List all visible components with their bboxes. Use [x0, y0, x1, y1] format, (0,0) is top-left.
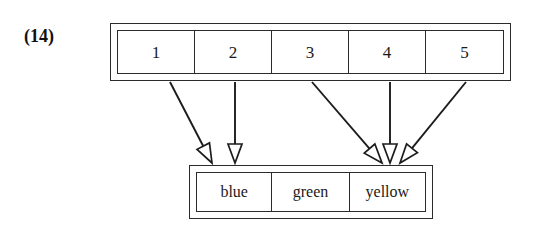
- mapping-arrow-3-to-yellow: [312, 82, 382, 163]
- value-array-cell-blue[interactable]: blue: [197, 173, 272, 211]
- index-array: 1 2 3 4 5: [117, 30, 504, 74]
- index-array-cell-1[interactable]: 1: [118, 31, 195, 73]
- value-array-cell-green[interactable]: green: [272, 173, 349, 211]
- figure-root: (14) 1 2 3 4 5 blue green yellow: [0, 0, 533, 235]
- value-array: blue green yellow: [196, 172, 426, 212]
- mapping-arrow-4-to-yellow: [383, 82, 397, 163]
- mapping-arrow-shaft: [170, 82, 204, 147]
- index-array-cell-3[interactable]: 3: [272, 31, 349, 73]
- figure-label: (14): [24, 26, 54, 47]
- index-array-cell-2[interactable]: 2: [195, 31, 272, 73]
- mapping-arrow-5-to-yellow: [400, 82, 466, 163]
- index-array-cell-4[interactable]: 4: [349, 31, 426, 73]
- mapping-arrow-2-to-blue: [228, 82, 242, 163]
- index-array-cell-5[interactable]: 5: [426, 31, 503, 73]
- arrowhead-icon: [197, 143, 212, 163]
- value-array-cell-yellow[interactable]: yellow: [350, 173, 425, 211]
- arrowhead-icon: [364, 144, 382, 163]
- arrowhead-icon: [400, 144, 417, 163]
- arrowhead-icon: [383, 144, 397, 163]
- mapping-arrow-shaft: [411, 82, 466, 149]
- arrowhead-icon: [228, 144, 242, 163]
- mapping-arrow-shaft: [312, 82, 371, 150]
- mapping-arrow-1-to-blue: [170, 82, 212, 163]
